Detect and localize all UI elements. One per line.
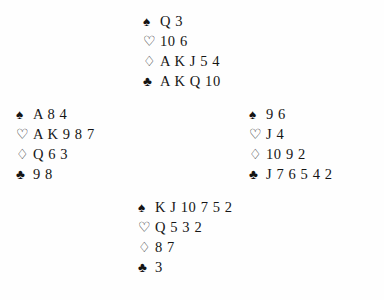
east-spades-row: ♠ 9 6 <box>249 104 333 124</box>
south-diamonds-row: ♢ 8 7 <box>138 237 233 257</box>
south-diamonds-cards: 8 7 <box>153 237 175 257</box>
spade-suit-icon: ♠ <box>143 12 158 32</box>
south-spades-row: ♠ K J 10 7 5 2 <box>138 197 233 217</box>
diamond-suit-icon: ♢ <box>138 238 153 258</box>
heart-suit-icon: ♡ <box>249 125 264 145</box>
north-hearts-cards: 10 6 <box>158 31 188 51</box>
heart-suit-icon: ♡ <box>143 32 158 52</box>
east-hearts-row: ♡ J 4 <box>249 124 333 144</box>
club-suit-icon: ♣ <box>16 165 31 185</box>
spade-suit-icon: ♠ <box>138 198 153 218</box>
west-diamonds-cards: Q 6 3 <box>31 144 68 164</box>
east-diamonds-row: ♢ 10 9 2 <box>249 144 333 164</box>
west-diamonds-row: ♢ Q 6 3 <box>16 144 95 164</box>
club-suit-icon: ♣ <box>138 258 153 278</box>
west-hearts-row: ♡ A K 9 8 7 <box>16 124 95 144</box>
south-clubs-row: ♣ 3 <box>138 257 233 277</box>
hand-south: ♠ K J 10 7 5 2 ♡ Q 5 3 2 ♢ 8 7 ♣ 3 <box>138 197 233 277</box>
west-spades-cards: A 8 4 <box>31 104 67 124</box>
north-diamonds-row: ♢ A K J 5 4 <box>143 51 221 71</box>
club-suit-icon: ♣ <box>143 72 158 92</box>
east-spades-cards: 9 6 <box>264 104 286 124</box>
south-hearts-cards: Q 5 3 2 <box>153 217 202 237</box>
club-suit-icon: ♣ <box>249 165 264 185</box>
diamond-suit-icon: ♢ <box>143 52 158 72</box>
east-clubs-row: ♣ J 7 6 5 4 2 <box>249 164 333 184</box>
spade-suit-icon: ♠ <box>16 105 31 125</box>
hand-east: ♠ 9 6 ♡ J 4 ♢ 10 9 2 ♣ J 7 6 5 4 2 <box>249 104 333 184</box>
west-clubs-row: ♣ 9 8 <box>16 164 95 184</box>
hand-west: ♠ A 8 4 ♡ A K 9 8 7 ♢ Q 6 3 ♣ 9 8 <box>16 104 95 184</box>
north-diamonds-cards: A K J 5 4 <box>158 51 220 71</box>
south-spades-cards: K J 10 7 5 2 <box>153 197 233 217</box>
north-spades-cards: Q 3 <box>158 11 183 31</box>
west-hearts-cards: A K 9 8 7 <box>31 124 95 144</box>
heart-suit-icon: ♡ <box>16 125 31 145</box>
north-clubs-row: ♣ A K Q 10 <box>143 71 221 91</box>
south-hearts-row: ♡ Q 5 3 2 <box>138 217 233 237</box>
north-hearts-row: ♡ 10 6 <box>143 31 221 51</box>
east-hearts-cards: J 4 <box>264 124 284 144</box>
west-clubs-cards: 9 8 <box>31 164 53 184</box>
north-clubs-cards: A K Q 10 <box>158 71 221 91</box>
hand-north: ♠ Q 3 ♡ 10 6 ♢ A K J 5 4 ♣ A K Q 10 <box>143 11 221 91</box>
north-spades-row: ♠ Q 3 <box>143 11 221 31</box>
west-spades-row: ♠ A 8 4 <box>16 104 95 124</box>
bridge-deal-diagram: ♠ Q 3 ♡ 10 6 ♢ A K J 5 4 ♣ A K Q 10 ♠ A … <box>0 0 384 300</box>
diamond-suit-icon: ♢ <box>16 145 31 165</box>
south-clubs-cards: 3 <box>153 257 163 277</box>
east-diamonds-cards: 10 9 2 <box>264 144 306 164</box>
east-clubs-cards: J 7 6 5 4 2 <box>264 164 333 184</box>
diamond-suit-icon: ♢ <box>249 145 264 165</box>
heart-suit-icon: ♡ <box>138 218 153 238</box>
spade-suit-icon: ♠ <box>249 105 264 125</box>
